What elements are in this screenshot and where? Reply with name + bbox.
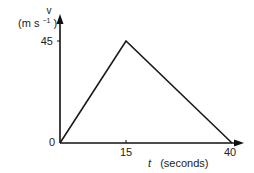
x-axis-label: t (seconds) (148, 157, 208, 169)
x-axis-label-var: t (148, 157, 152, 169)
origin-label: 0 (49, 136, 55, 148)
y-axis-arrow-icon (57, 14, 64, 24)
x-tick-label-15: 15 (120, 146, 132, 158)
velocity-time-chart: 45 0 15 40 t (seconds) v (m s −1 ) (0, 0, 254, 173)
y-axis-label-unit: (m s −1 ) (18, 13, 57, 29)
velocity-series-line (60, 41, 232, 143)
y-axis-label-unit-close: ) (54, 17, 58, 29)
x-tick-label-40: 40 (224, 146, 236, 158)
y-tick-label-45: 45 (41, 35, 53, 47)
y-axis-label-unit-sup: −1 (42, 17, 50, 24)
y-axis-label-unit-main: (m s (18, 17, 40, 29)
x-axis-label-unit: (seconds) (160, 157, 208, 169)
